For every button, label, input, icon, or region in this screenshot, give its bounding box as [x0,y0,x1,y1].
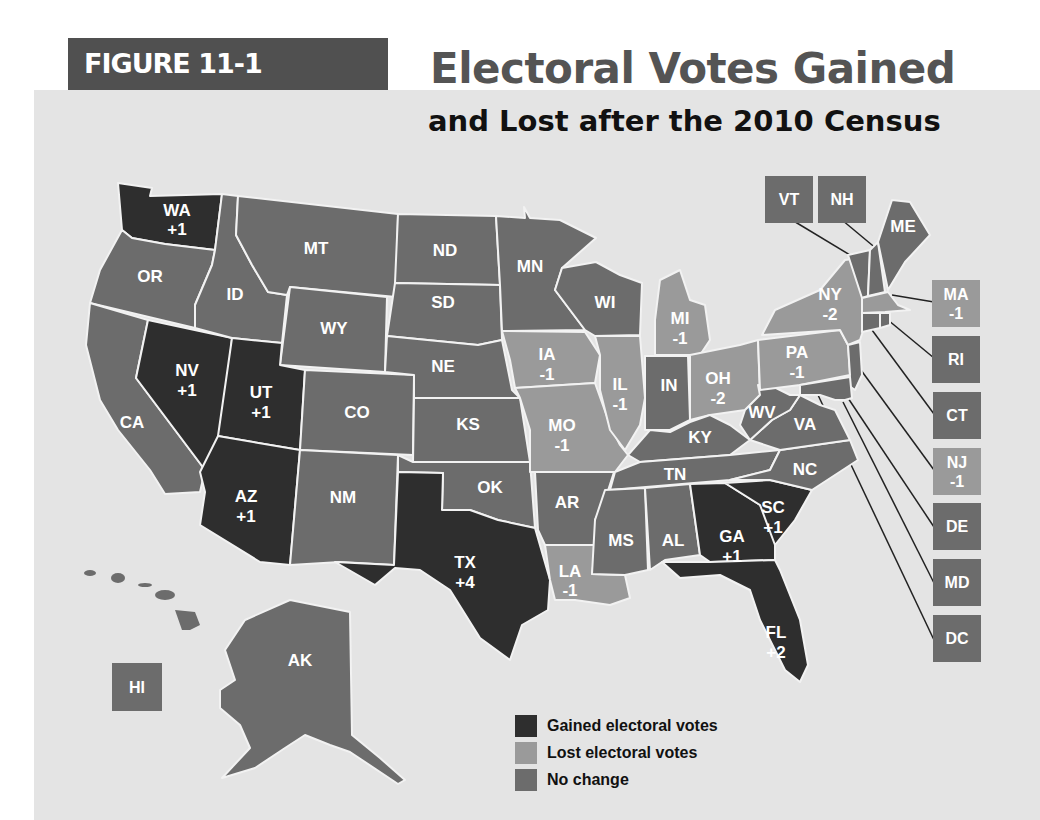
svg-text:-1: -1 [789,363,804,382]
legend-swatch-no-change [515,769,537,791]
svg-text:OR: OR [137,267,163,286]
state-box-de[interactable]: DE [933,503,981,550]
svg-text:IA: IA [539,345,556,364]
svg-text:NV: NV [175,361,199,380]
svg-text:ME: ME [890,217,916,236]
svg-text:ID: ID [227,285,244,304]
svg-text:IL: IL [612,375,627,394]
svg-text:NM: NM [330,488,356,507]
svg-text:LA: LA [559,562,582,581]
svg-text:+2: +2 [766,643,785,662]
state-box-nj[interactable]: NJ-1 [933,448,981,495]
legend-item-gained: Gained electoral votes [515,712,718,739]
svg-text:WA: WA [163,201,190,220]
svg-text:TN: TN [664,465,687,484]
svg-text:+1: +1 [722,547,741,566]
svg-text:NC: NC [793,460,818,479]
state-me[interactable] [878,200,930,290]
svg-text:UT: UT [250,383,273,402]
svg-text:+4: +4 [455,573,475,592]
svg-text:AR: AR [555,493,580,512]
svg-text:CO: CO [344,403,370,422]
state-ct[interactable] [862,313,880,332]
state-box-ma[interactable]: MA-1 [932,280,980,327]
svg-text:PA: PA [786,343,808,362]
legend: Gained electoral votes Lost electoral vo… [515,712,718,793]
svg-text:MN: MN [517,257,543,276]
svg-text:WV: WV [748,403,776,422]
svg-text:SD: SD [431,293,455,312]
svg-text:-1: -1 [562,581,577,600]
svg-text:-2: -2 [822,305,837,324]
svg-text:-1: -1 [612,395,627,414]
svg-text:MI: MI [671,309,690,328]
svg-text:OK: OK [477,478,503,497]
svg-text:TX: TX [454,553,476,572]
svg-text:WI: WI [595,293,616,312]
state-box-ri[interactable]: RI [932,336,980,383]
svg-text:+1: +1 [167,220,186,239]
svg-text:KY: KY [688,428,712,447]
svg-text:MT: MT [304,239,329,258]
svg-text:ND: ND [433,241,458,260]
state-ny[interactable] [762,258,865,345]
svg-text:-1: -1 [539,365,554,384]
svg-text:NE: NE [431,357,455,376]
state-box-hi[interactable]: HI [112,663,162,711]
legend-item-lost: Lost electoral votes [515,739,718,766]
svg-text:MS: MS [608,531,634,550]
state-nm[interactable] [290,450,398,565]
svg-text:+1: +1 [177,381,196,400]
svg-text:CA: CA [120,413,145,432]
svg-text:WY: WY [320,319,348,338]
svg-text:+1: +1 [251,403,270,422]
svg-text:-2: -2 [710,389,725,408]
svg-text:-1: -1 [554,436,569,455]
svg-text:FL: FL [766,623,787,642]
svg-text:+1: +1 [236,507,255,526]
legend-item-no-change: No change [515,766,718,793]
svg-text:GA: GA [719,527,745,546]
hawaii-islands [84,570,200,630]
svg-text:+1: +1 [763,518,782,537]
svg-text:AZ: AZ [235,487,258,506]
state-box-ct[interactable]: CT [933,392,981,439]
state-box-dc[interactable]: DC [933,615,981,662]
svg-text:MO: MO [548,416,575,435]
state-ri[interactable] [880,313,890,328]
state-box-vt[interactable]: VT [765,176,813,223]
svg-text:-1: -1 [672,329,687,348]
state-box-nh[interactable]: NH [818,176,866,223]
svg-text:IN: IN [661,376,678,395]
state-box-md[interactable]: MD [933,559,981,606]
svg-text:KS: KS [456,415,480,434]
state-ak[interactable] [220,600,405,784]
legend-swatch-lost [515,742,537,764]
svg-text:AL: AL [662,531,685,550]
svg-text:NY: NY [818,285,842,304]
state-fl[interactable] [662,560,808,682]
svg-text:SC: SC [761,498,785,517]
svg-text:AK: AK [288,651,313,670]
svg-text:VA: VA [794,415,816,434]
svg-text:OH: OH [705,369,731,388]
legend-swatch-gained [515,715,537,737]
